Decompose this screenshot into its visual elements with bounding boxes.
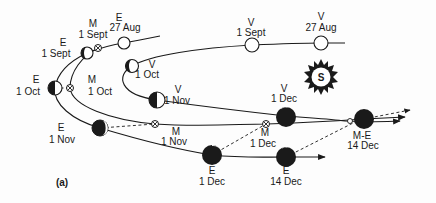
mars-1sept-body: M	[89, 18, 97, 29]
earth-27aug-date: 27 Aug	[109, 22, 140, 33]
mars-1sept-marker	[95, 45, 102, 52]
venus-orbit-path	[123, 43, 400, 122]
orbit-diagram: S E 27 Aug M 1 Sept E 1 Sept E 1 Oct M 1…	[0, 0, 436, 203]
venus-1nov-marker	[149, 92, 165, 108]
mars-orbit-path	[70, 48, 405, 125]
sightline-14dec	[286, 122, 355, 157]
panel-label: (a)	[56, 177, 68, 188]
venus-27aug-body: V	[318, 11, 325, 22]
venus-1sept-date: 1 Sept	[237, 27, 266, 38]
earth-14dec-marker	[276, 147, 296, 167]
mars-1nov-marker	[152, 121, 159, 128]
earth-1nov-marker	[92, 120, 108, 136]
earth-27aug-marker	[118, 37, 130, 49]
mars-1oct-date: 1 Oct	[88, 86, 112, 97]
sun-label: S	[318, 72, 325, 83]
earth-1dec-marker	[202, 145, 222, 165]
mars-1sept-date: 1 Sept	[79, 29, 108, 40]
earth-1sept-marker	[81, 47, 93, 59]
mars-earth-14dec-date: 14 Dec	[347, 140, 379, 151]
venus-1nov-body: V	[175, 84, 182, 95]
mars-1nov-date: 1 Nov	[161, 136, 187, 147]
venus-1sept-marker	[245, 38, 259, 52]
diagram-canvas: S E 27 Aug M 1 Sept E 1 Sept E 1 Oct M 1…	[0, 0, 436, 203]
earth-1sept-body: E	[60, 37, 67, 48]
venus-27aug-marker	[314, 36, 328, 50]
mars-1dec-body: M	[261, 127, 269, 138]
mars-1oct-marker	[67, 85, 74, 92]
earth-1nov-date: 1 Nov	[49, 134, 75, 145]
mars-earth-14dec-marker	[348, 109, 375, 129]
venus-1dec-date: 1 Dec	[271, 93, 297, 104]
earth-14dec-body: E	[283, 165, 290, 176]
sun-icon: S	[304, 59, 338, 95]
earth-1oct-body: E	[33, 74, 40, 85]
mars-1dec-date: 1 Dec	[250, 138, 276, 149]
mars-1oct-body: M	[88, 74, 96, 85]
venus-27aug-date: 27 Aug	[305, 22, 336, 33]
venus-1oct-date: 1 Oct	[135, 69, 159, 80]
venus-1dec-marker	[276, 107, 296, 127]
earth-1oct-date: 1 Oct	[16, 86, 40, 97]
earth-1dec-body: E	[209, 165, 216, 176]
earth-1oct-marker	[48, 81, 62, 95]
venus-1nov-date: 1 Nov	[164, 95, 190, 106]
earth-1nov-body: E	[58, 122, 65, 133]
earth-14dec-date: 14 Dec	[270, 176, 302, 187]
earth-1sept-date: 1 Sept	[42, 48, 71, 59]
earth-1dec-date: 1 Dec	[199, 176, 225, 187]
